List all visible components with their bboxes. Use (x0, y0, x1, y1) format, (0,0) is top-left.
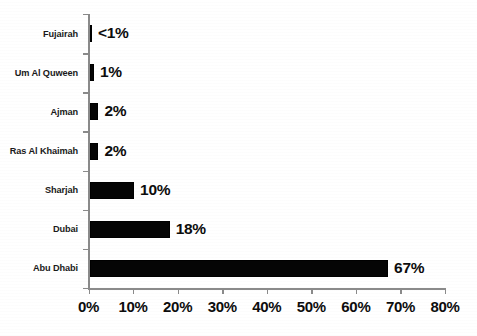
bar[interactable] (90, 221, 170, 238)
bar-chart: Fujairah<1%Um Al Quween1%Ajman2%Ras Al K… (0, 0, 477, 336)
bar-row: Sharjah10% (0, 171, 477, 210)
bar-row: Um Al Quween1% (0, 53, 477, 92)
bar-value-label: 10% (140, 182, 170, 198)
category-label: Um Al Quween (0, 68, 78, 78)
x-axis-tick (133, 288, 134, 294)
bar[interactable] (90, 103, 99, 120)
x-axis-tick (267, 288, 268, 294)
bar-value-label: 2% (104, 143, 126, 159)
category-label: Ras Al Khaimah (0, 146, 78, 156)
category-label: Dubai (0, 224, 78, 234)
bar-value-label: 1% (100, 64, 122, 80)
bar[interactable] (90, 64, 94, 81)
bar-row: Fujairah<1% (0, 14, 477, 53)
category-label: Fujairah (0, 29, 78, 39)
x-axis-tick (400, 288, 401, 294)
category-label: Ajman (0, 107, 78, 117)
x-axis-tick (178, 288, 179, 294)
bar-value-label: 67% (394, 260, 424, 276)
bar-value-label: 18% (176, 221, 206, 237)
x-axis-tick (445, 288, 446, 294)
x-axis-tick-label: 80% (415, 298, 475, 315)
x-axis-tick (89, 288, 90, 294)
x-axis-tick (222, 288, 223, 294)
bar-value-label: <1% (98, 25, 129, 41)
bar-row: Ras Al Khaimah2% (0, 131, 477, 170)
bar-row: Abu Dhabi67% (0, 249, 477, 288)
bar[interactable] (90, 260, 389, 277)
category-label: Abu Dhabi (0, 263, 78, 273)
bar-row: Ajman2% (0, 92, 477, 131)
bar[interactable] (90, 182, 135, 199)
x-axis-tick (356, 288, 357, 294)
plot-area: Fujairah<1%Um Al Quween1%Ajman2%Ras Al K… (0, 0, 477, 336)
bar[interactable] (90, 143, 99, 160)
bar-value-label: 2% (104, 103, 126, 119)
x-axis-tick (311, 288, 312, 294)
bar-row: Dubai18% (0, 210, 477, 249)
bar[interactable] (90, 25, 92, 42)
category-label: Sharjah (0, 185, 78, 195)
